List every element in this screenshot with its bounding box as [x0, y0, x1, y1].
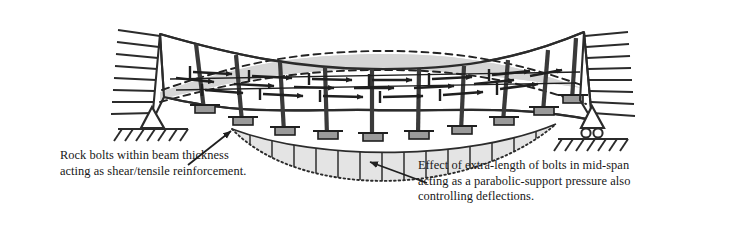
rock-bolts-caption: Rock bolts within beam thickness acting … — [60, 148, 246, 179]
bolt-plate — [447, 126, 477, 134]
parabolic-pressure-caption-line-2: acting as a parabolic-support pressure a… — [418, 174, 630, 190]
figure-root: Rock bolts within beam thickness acting … — [0, 0, 738, 229]
bolt-plate — [489, 117, 519, 125]
bolt-plate — [313, 131, 343, 139]
bolt-plate — [529, 107, 559, 115]
bolt-plate — [190, 105, 220, 113]
bolt-plate — [270, 127, 300, 135]
parabolic-pressure-caption-line-3: controlling deflections. — [418, 189, 630, 205]
left-rock-hatch — [111, 30, 160, 114]
rock-bolts-caption-line-1: Rock bolts within beam thickness — [60, 148, 246, 164]
roller-circle — [593, 128, 602, 137]
pin-support-triangle — [141, 107, 164, 128]
bolt-shaft — [325, 67, 327, 136]
bolt-plate — [404, 131, 434, 139]
roller-circle — [581, 128, 590, 137]
parabolic-pressure-caption-line-1: Effect of extra-length of bolts in mid-s… — [418, 158, 630, 174]
parabolic-pressure-caption: Effect of extra-length of bolts in mid-s… — [418, 158, 630, 205]
bolt-shaft — [418, 69, 419, 136]
bolt-plate — [358, 133, 388, 141]
roller-support-ground-hatch — [554, 139, 628, 151]
rock-bolts-caption-line-2: acting as shear/tensile reinforcement. — [60, 164, 246, 180]
bolt-plate — [228, 117, 258, 125]
right-rock-hatch — [585, 32, 635, 116]
pin-support-ground-hatch — [114, 129, 188, 141]
bolt-shaft — [461, 66, 464, 131]
bolt-plate — [558, 95, 588, 103]
